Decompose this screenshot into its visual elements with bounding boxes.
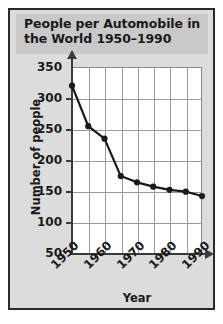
gridline-vertical [154,68,155,253]
y-tick-label: 200 [18,153,62,167]
y-tick-mark [66,98,72,100]
y-tick-mark [66,160,72,162]
gridline-horizontal [73,192,201,193]
y-tick-label: 350 [18,60,62,74]
y-tick-label: 300 [18,91,62,105]
gridline-horizontal [73,99,201,100]
gridline-vertical [138,68,139,253]
y-tick-label: 250 [18,122,62,136]
y-axis-line [71,57,73,255]
chart-title-line-2: the World 1950–1990 [24,31,171,46]
chart-title-line-1: People per Automobile in [24,16,200,31]
y-tick-mark [66,129,72,131]
chart-figure: People per Automobile in the World 1950–… [8,8,215,310]
y-tick-mark [66,222,72,224]
gridline-vertical [170,68,171,253]
y-tick-label: 100 [18,215,62,229]
y-axis-arrowhead-icon [67,50,77,59]
gridline-horizontal [73,161,201,162]
plot-area [72,67,202,254]
y-tick-mark [66,191,72,193]
x-axis-label: Year [72,291,202,305]
gridline-vertical [105,68,106,253]
chart-title: People per Automobile in the World 1950–… [24,16,204,46]
y-tick-label: 150 [18,184,62,198]
gridline-horizontal [73,223,201,224]
gridline-horizontal [73,130,201,131]
x-tick-label: 1950 [48,238,82,272]
gridline-vertical [122,68,123,253]
gridline-vertical [187,68,188,253]
gridline-vertical [89,68,90,253]
